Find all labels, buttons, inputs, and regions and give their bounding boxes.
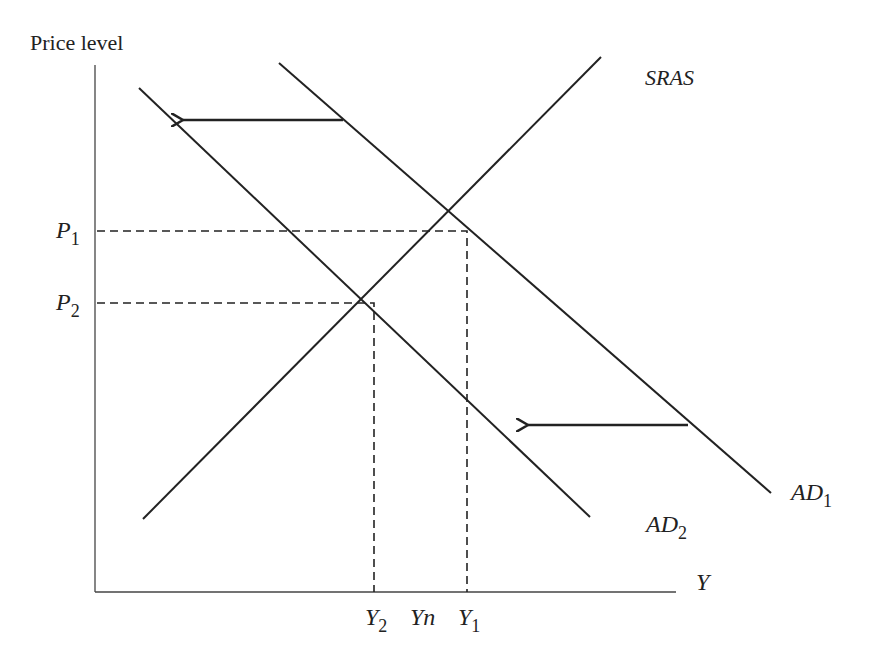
y-axis-label: Price level [30,30,123,55]
ad1-label: AD1 [789,479,832,511]
sras-label: SRAS [645,65,694,90]
yn-label: Yn [410,604,435,630]
y2-label: Y2 [365,604,387,636]
p1-y1-guide [97,231,467,592]
ad2-label: AD2 [644,511,687,543]
ad1-curve [279,63,771,493]
x-axis-label: Y [696,569,712,595]
p1-label: P1 [55,217,80,249]
p2-y2-guide [97,303,374,592]
sras-curve [143,57,601,519]
p2-label: P2 [55,289,80,321]
ad-as-diagram: Price level Y SRAS AD1 AD2 P1 P2 Y2 Yn Y… [0,0,874,650]
y1-label: Y1 [458,604,480,636]
